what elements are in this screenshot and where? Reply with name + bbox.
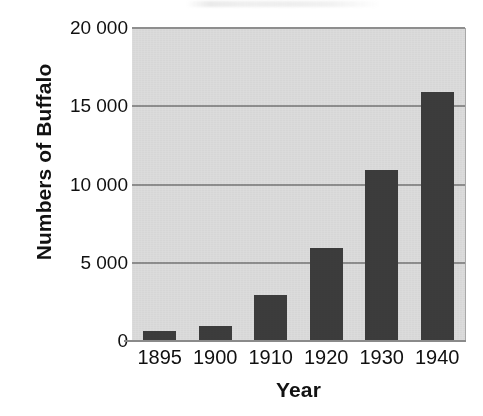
plot-area xyxy=(132,28,466,342)
x-tick-label: 1895 xyxy=(132,345,188,369)
x-tick-label: 1920 xyxy=(299,345,355,369)
bar xyxy=(254,295,287,342)
x-tick-label: 1930 xyxy=(354,345,410,369)
y-tick-label: 10 000 xyxy=(28,175,128,194)
x-axis-title: Year xyxy=(132,378,465,402)
x-tick-label: 1900 xyxy=(188,345,244,369)
x-tick-label: 1910 xyxy=(243,345,299,369)
x-axis-baseline xyxy=(124,340,466,342)
y-axis-tick-labels: 05 00010 00015 00020 000 xyxy=(28,0,128,416)
y-tick-label: 15 000 xyxy=(28,96,128,115)
y-tick-label: 5 000 xyxy=(28,253,128,272)
bar-series xyxy=(132,29,465,342)
cropped-title-artifact xyxy=(186,1,382,7)
bar xyxy=(310,248,343,342)
bar-chart-figure: Numbers of Buffalo 05 00010 00015 00020 … xyxy=(0,0,483,416)
y-tick-label: 0 xyxy=(28,331,128,350)
y-tick-label: 20 000 xyxy=(28,18,128,37)
bar xyxy=(421,92,454,342)
bar xyxy=(365,170,398,342)
x-axis-tick-labels: 189519001910192019301940 xyxy=(132,345,465,373)
x-tick-label: 1940 xyxy=(410,345,466,369)
